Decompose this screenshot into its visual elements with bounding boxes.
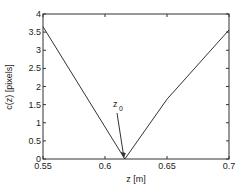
y-tick-label: 0.5 xyxy=(28,136,41,146)
y-tick-label: 3.5 xyxy=(28,27,41,37)
chart: 00.511.522.533.54 0.550.60.650.7 z0 z [m… xyxy=(0,0,247,194)
plot-frame xyxy=(43,14,229,159)
y-axis-label: c(z) [pixels] xyxy=(4,64,14,110)
data-series xyxy=(43,27,229,159)
y-tick-label: 1.5 xyxy=(28,100,41,110)
x-tick-label: 0.65 xyxy=(158,161,176,171)
annotation-label: z xyxy=(113,99,118,109)
y-axis: 00.511.522.533.54 xyxy=(28,9,229,164)
y-tick-label: 2.5 xyxy=(28,63,41,73)
y-tick-label: 1 xyxy=(36,118,41,128)
x-axis-label: z [m] xyxy=(126,174,146,184)
annotation-arrow xyxy=(117,113,124,157)
x-tick-label: 0.55 xyxy=(34,161,52,171)
y-tick-label: 2 xyxy=(36,82,41,92)
annotation-z0: z0 xyxy=(113,99,126,158)
series-line xyxy=(43,27,229,159)
x-tick-label: 0.7 xyxy=(223,161,236,171)
annotation-subscript: 0 xyxy=(119,105,123,112)
x-tick-label: 0.6 xyxy=(99,161,112,171)
plot-border xyxy=(43,14,229,159)
x-axis: 0.550.60.650.7 xyxy=(34,14,235,171)
y-tick-label: 4 xyxy=(36,9,41,19)
y-tick-label: 3 xyxy=(36,45,41,55)
